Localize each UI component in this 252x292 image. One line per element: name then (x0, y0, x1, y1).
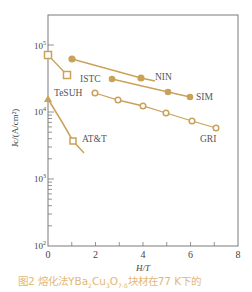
svg-text:4: 4 (141, 249, 146, 260)
label-sim: SIM (196, 92, 213, 102)
series-sim-line (112, 79, 190, 97)
label-tesuh: TeSUH (54, 88, 83, 98)
x-axis-ticks (72, 242, 215, 246)
label-att: AT&T (82, 134, 107, 144)
jc-vs-field-chart: 0 2 4 6 8 102 103 104 105 H/T Jc/(A/cm²) (0, 0, 252, 292)
label-gri: GRI (200, 134, 216, 144)
svg-text:104: 104 (34, 106, 46, 117)
svg-text:102: 102 (34, 240, 46, 251)
svg-text:8: 8 (236, 249, 241, 260)
svg-text:6: 6 (188, 249, 193, 260)
label-istc: ISTC (80, 74, 101, 84)
y-tick-labels: 102 103 104 105 (34, 40, 46, 251)
svg-text:103: 103 (34, 173, 46, 184)
series-att-line (48, 99, 84, 153)
x-axis-title: H/T (135, 263, 151, 273)
plot-frame (48, 15, 238, 246)
x-tick-labels: 0 2 4 6 8 (46, 249, 241, 260)
svg-text:0: 0 (46, 249, 51, 260)
label-nin: NIN (155, 72, 172, 82)
svg-text:105: 105 (34, 40, 46, 51)
y-axis-title: Jc/(A/cm²) (10, 109, 20, 148)
figure-caption: 图2 熔化法YBa2Cu3O7-δ块材在77 K下的 (18, 273, 248, 289)
y-axis-ticks (48, 45, 54, 226)
svg-text:2: 2 (93, 249, 98, 260)
series-labels: ISTC TeSUH NIN SIM GRI AT&T (54, 72, 216, 144)
